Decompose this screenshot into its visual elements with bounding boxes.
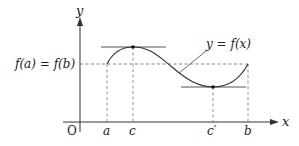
y-axis-arrow-icon <box>77 17 83 26</box>
y-axis <box>77 17 83 132</box>
rolle-theorem-diagram: y x O f(a) = f(b) y = f(x) a c c′ b <box>0 0 299 146</box>
x-axis-arrow-icon <box>270 119 279 125</box>
min-point <box>211 85 215 89</box>
origin-label: O <box>67 124 77 138</box>
y-axis-label: y <box>75 3 84 18</box>
tick-label-b: b <box>244 124 252 138</box>
tick-label-c-prime: c′ <box>207 124 217 138</box>
max-point <box>131 45 135 49</box>
curve-label-leader <box>179 51 206 73</box>
curve-label: y = f(x) <box>205 37 251 51</box>
tick-label-c: c <box>129 124 136 138</box>
level-label: f(a) = f(b) <box>14 57 75 71</box>
x-axis-label: x <box>282 114 290 129</box>
curve <box>107 47 248 87</box>
tick-label-a: a <box>103 124 110 138</box>
